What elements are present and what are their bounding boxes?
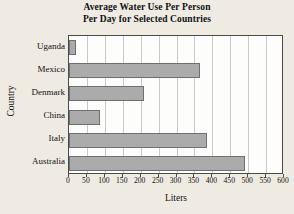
chart-title: Average Water Use Per Person Per Day for… xyxy=(0,2,294,25)
bar-row xyxy=(69,59,282,82)
bar-row xyxy=(69,106,282,129)
x-axis-label: Liters xyxy=(68,193,284,203)
bar-row xyxy=(69,36,282,59)
chart-title-line-2: Per Day for Selected Countries xyxy=(0,14,294,26)
bar-row xyxy=(69,152,282,175)
y-tick-uganda: Uganda xyxy=(1,41,65,51)
y-tick-china: China xyxy=(1,110,65,120)
bar-mexico xyxy=(69,63,200,78)
x-tick-600: 600 xyxy=(270,176,294,185)
y-tick-australia: Australia xyxy=(1,156,65,166)
y-axis-tick-labels: UgandaMexicoDenmarkChinaItalyAustralia xyxy=(0,35,65,174)
bar-row xyxy=(69,129,282,152)
y-tick-italy: Italy xyxy=(1,133,65,143)
bar-denmark xyxy=(69,86,144,101)
y-tick-denmark: Denmark xyxy=(1,87,65,97)
bar-row xyxy=(69,82,282,105)
bar-australia xyxy=(69,156,245,171)
bar-uganda xyxy=(69,40,76,55)
y-tick-mexico: Mexico xyxy=(1,64,65,74)
bar-china xyxy=(69,110,100,125)
plot-area xyxy=(68,35,283,174)
chart-figure: Average Water Use Per Person Per Day for… xyxy=(0,0,294,214)
chart-title-line-1: Average Water Use Per Person xyxy=(0,2,294,14)
bar-italy xyxy=(69,133,207,148)
